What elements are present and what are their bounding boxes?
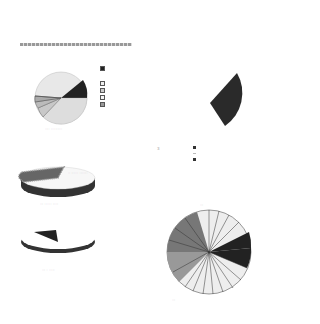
- pie-chart-5: [167, 210, 257, 300]
- legend-swatch-3: [100, 88, 105, 93]
- chart1-caption: ···· ··········: [45, 127, 62, 131]
- legend-swatch-4: [100, 95, 105, 100]
- chart3-caption: ··· ······ ·····: [40, 202, 58, 206]
- legend-swatch-1: [100, 66, 105, 71]
- chart4-caption: ··· · ·····: [42, 268, 55, 272]
- pie-chart-2: [200, 70, 280, 150]
- chart3-slice-label: ·· ······ ·······: [68, 171, 88, 175]
- legend-swatch-5: [100, 102, 105, 107]
- chart2-axis-label: 3: [157, 146, 160, 151]
- chart5-top-label: ···: [200, 203, 203, 207]
- legend-swatch-2: [100, 81, 105, 86]
- pie-chart-3: [20, 160, 100, 210]
- legend-swatch-b: [193, 153, 196, 154]
- chart5-bottom-label: ···: [172, 298, 175, 302]
- legend-swatch-c: [193, 158, 196, 161]
- legend-swatch-a: [193, 146, 196, 149]
- page-title: [20, 43, 132, 46]
- pie-chart-4: [20, 228, 100, 278]
